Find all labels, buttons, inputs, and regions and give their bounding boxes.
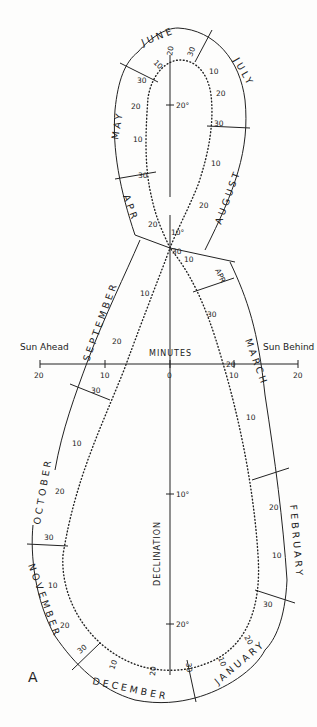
svg-text:10: 10 — [272, 551, 282, 560]
svg-text:10: 10 — [140, 289, 150, 298]
svg-text:30: 30 — [44, 533, 54, 542]
outer-scale-september — [55, 240, 140, 470]
svg-text:20: 20 — [216, 89, 226, 98]
tick-label-zero: 0 — [167, 371, 172, 380]
sun-ahead-label: Sun Ahead — [20, 342, 69, 352]
svg-text:20: 20 — [112, 337, 122, 346]
day-marks: 10 20 30 10 20 30 30 20 10 10 20 30 20 3… — [44, 45, 282, 676]
svg-text:30: 30 — [137, 76, 147, 85]
svg-text:30: 30 — [184, 662, 194, 673]
month-december: DECEMBER — [92, 675, 170, 702]
svg-text:10: 10 — [107, 658, 119, 670]
svg-text:20: 20 — [269, 503, 279, 512]
month-november: NOVEMBER — [26, 562, 63, 639]
svg-text:10: 10 — [152, 58, 165, 71]
panel-label: A — [28, 669, 38, 685]
outer-scale-march-feb — [230, 262, 287, 650]
svg-text:30: 30 — [263, 600, 273, 609]
month-june: JUNE — [139, 25, 176, 49]
svg-text:30: 30 — [207, 310, 217, 319]
svg-text:10: 10 — [209, 67, 219, 76]
svg-text:10: 10 — [72, 439, 82, 448]
month-apr-right: APR — [213, 267, 227, 284]
svg-text:10: 10 — [48, 581, 58, 590]
svg-text:10: 10 — [211, 159, 221, 168]
svg-text:10: 10 — [133, 135, 143, 144]
declination-tick-n20: 20° — [176, 101, 190, 110]
svg-text:30: 30 — [214, 119, 224, 128]
svg-text:20: 20 — [199, 201, 209, 210]
month-may: MAY — [109, 110, 125, 140]
svg-text:20: 20 — [131, 102, 141, 111]
svg-text:30: 30 — [185, 45, 197, 57]
declination-tick-s20: 20° — [176, 620, 190, 629]
svg-text:30: 30 — [76, 642, 89, 655]
month-july: JULY — [231, 55, 257, 89]
declination-axis-title: DECLINATION — [153, 521, 162, 586]
month-october: OCTOBER — [31, 457, 54, 525]
tick-label-behind-10: 10 — [229, 371, 239, 380]
svg-text:20: 20 — [148, 666, 158, 677]
month-september: SEPTEMBER — [81, 280, 120, 363]
svg-text:20: 20 — [148, 220, 158, 229]
analemma-diagram: Sun Ahead Sun Behind MINUTES 20 10 0 10 … — [0, 0, 317, 727]
svg-text:10: 10 — [184, 255, 194, 264]
svg-text:30: 30 — [91, 386, 101, 395]
minutes-axis-title: MINUTES — [149, 349, 192, 358]
svg-text:20: 20 — [165, 45, 176, 56]
declination-tick-s10: 10° — [176, 490, 190, 499]
month-apr-top: APR — [121, 193, 141, 223]
sun-behind-label: Sun Behind — [263, 342, 314, 352]
svg-text:10: 10 — [246, 413, 256, 422]
svg-text:30: 30 — [138, 171, 148, 180]
svg-text:20: 20 — [60, 621, 70, 630]
month-february: FEBRUARY — [288, 504, 305, 579]
tick-label-ahead-20: 20 — [34, 371, 44, 380]
svg-text:30: 30 — [172, 247, 182, 256]
month-august: AUGUST — [213, 168, 243, 226]
svg-text:20: 20 — [226, 360, 236, 369]
tick-label-behind-20: 20 — [293, 371, 303, 380]
svg-text:20: 20 — [55, 487, 65, 496]
tick-label-ahead-10: 10 — [100, 371, 110, 380]
